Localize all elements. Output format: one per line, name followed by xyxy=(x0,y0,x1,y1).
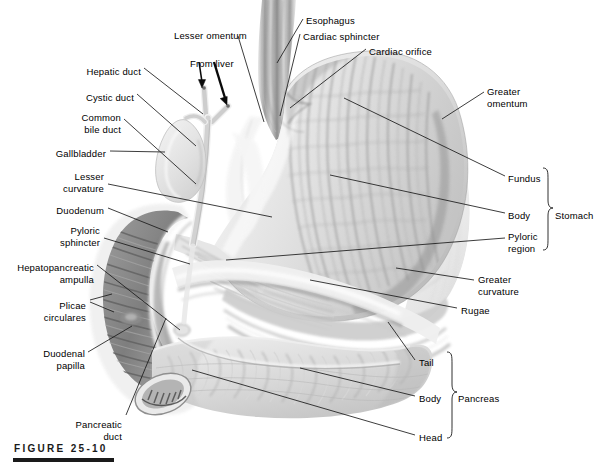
anatomy-illustration xyxy=(0,0,608,470)
figure-caption: FIGURE 25-10 xyxy=(14,443,108,454)
figure-caption-rule xyxy=(13,458,114,462)
figure-page: Hepatic ductCystic ductCommon bile ductG… xyxy=(0,0,608,470)
